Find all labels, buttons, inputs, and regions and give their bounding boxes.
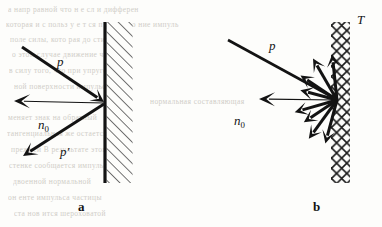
label-normal-a-subscript: 0 [45,124,49,134]
label-incident-momentum-b: p [269,38,276,54]
label-wall-temperature: T [357,12,364,28]
physics-figure: а напр равной что н е сл и дифференкотор… [0,0,382,227]
label-normal-b-subscript: 0 [241,120,245,130]
panel-a-caption: a [78,199,85,215]
label-reflected-momentum-a: p′ [60,144,69,160]
label-normal-b: n0 [234,113,245,130]
smooth-wall-a [105,22,133,183]
surface-normal-shaft [269,99,336,100]
figure-canvas [0,0,382,227]
panel-a [14,22,133,183]
panel-b-caption: b [313,199,320,215]
label-incident-momentum-a: p [57,54,64,70]
label-normal-a: n0 [38,117,49,134]
wall-hatching-a [107,22,133,183]
surface-normal-shaft [24,101,104,103]
panel-b [228,22,350,183]
